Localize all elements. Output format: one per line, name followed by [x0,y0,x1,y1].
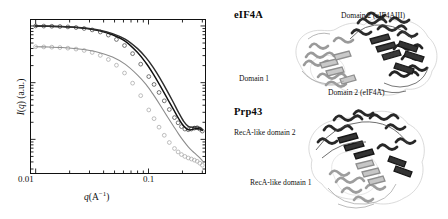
domain-label-eif4aiii: Domain 2 (eIF4AIII) [341,11,405,20]
domain-label-reca-domain-2: RecA-like domain 2 [234,128,296,137]
molecule-outline-prp43 [309,111,424,204]
protein-structures-panel: eIF4A [224,0,448,219]
xtick-label-0: 0.01 [18,174,34,184]
x-axis-title: q(A−1) [84,190,109,202]
domain-label-domain-1: Domain 1 [239,74,269,83]
saxs-chart-panel: 0.01 0.1 q(A−1) I(q) (a.u.) [0,0,224,219]
saxs-plot [0,0,224,219]
ribbon-diagram-prp43 [282,104,448,216]
figure-root: 0.01 0.1 q(A−1) I(q) (a.u.) eIF4A [0,0,448,219]
domain-label-reca-domain-1: RecA-like domain 1 [250,178,312,187]
protein-title-eif4a: eIF4A [234,9,263,20]
xtick-label-1: 0.1 [143,174,154,184]
y-axis-title: I(q) (a.u.) [16,60,26,134]
protein-title-prp43: Prp43 [234,106,262,117]
domain-1-ribbons [302,33,356,86]
reca-domain-1-ribbons [328,160,396,208]
domain-label-eif4a: Domain 2 (eIF4A) [328,88,385,97]
